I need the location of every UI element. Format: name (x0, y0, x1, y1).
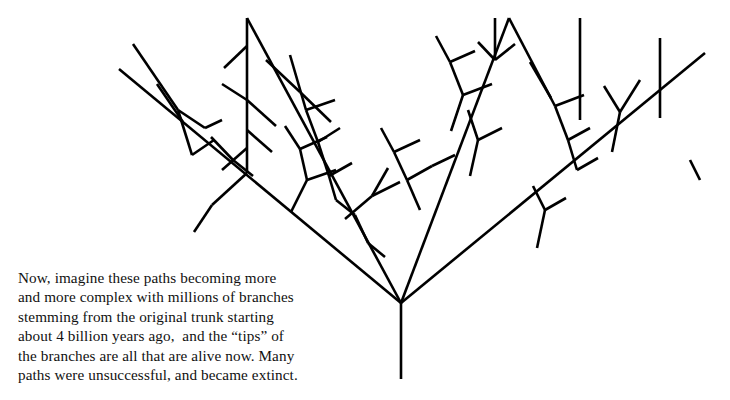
caption-line-2: and more complex with millions of branch… (18, 287, 366, 306)
caption-line-3: stemming from the original trunk startin… (18, 307, 366, 326)
caption-paragraph: Now, imagine these paths becoming more a… (18, 268, 366, 384)
caption-line-4: about 4 billion years ago, and the “tips… (18, 326, 366, 345)
figure-page: Now, imagine these paths becoming more a… (0, 0, 730, 400)
caption-line-5: the branches are all that are alive now.… (18, 346, 366, 365)
caption-line-1: Now, imagine these paths becoming more (18, 268, 366, 287)
caption-line-6: paths were unsuccessful, and became exti… (18, 365, 366, 384)
